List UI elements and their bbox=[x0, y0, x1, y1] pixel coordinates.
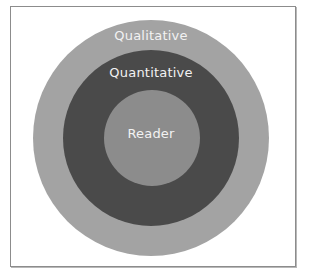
reader-label: Reader bbox=[51, 126, 251, 141]
qualitative-label: Qualitative bbox=[51, 28, 251, 43]
quantitative-label: Quantitative bbox=[51, 65, 251, 80]
